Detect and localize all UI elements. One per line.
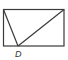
geometry-diagram: D — [0, 0, 68, 60]
rectangle — [4, 10, 65, 47]
point-label-d: D — [15, 49, 22, 59]
segment-top-right-to-d — [18, 10, 64, 47]
segment-top-left-to-d — [4, 10, 19, 47]
